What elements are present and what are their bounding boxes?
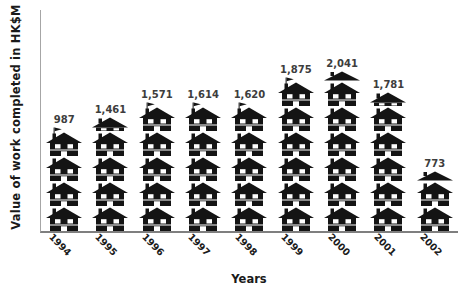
house-with-flag-icon: [278, 77, 314, 106]
house-partial-icon: [92, 117, 128, 131]
pictogram-column-1996: 1,571: [134, 89, 180, 231]
value-label: 1,620: [234, 89, 266, 100]
house-icon: [92, 182, 128, 206]
pictogram-column-2001: 1,781: [365, 79, 411, 231]
value-label: 987: [54, 114, 75, 125]
house-icon: [324, 182, 360, 206]
house-icon: [139, 182, 175, 206]
house-partial-icon: [370, 92, 406, 106]
house-icon: [324, 207, 360, 231]
house-stack: [185, 102, 221, 231]
house-icon: [278, 207, 314, 231]
x-tick-label: 1998: [233, 231, 259, 257]
x-tick-label: 1995: [93, 231, 119, 257]
value-label: 1,614: [187, 89, 219, 100]
house-icon: [139, 132, 175, 156]
house-icon: [324, 82, 360, 106]
house-stack: [278, 77, 314, 231]
house-icon: [231, 182, 267, 206]
house-icon: [139, 157, 175, 181]
house-icon: [46, 157, 82, 181]
value-label: 1,571: [141, 89, 173, 100]
house-stack: [231, 102, 267, 231]
pictogram-column-1997: 1,614: [180, 89, 226, 231]
x-tick-label: 2001: [372, 231, 398, 257]
house-icon: [370, 182, 406, 206]
house-icon: [231, 157, 267, 181]
house-roof-icon: [324, 71, 360, 81]
house-icon: [185, 207, 221, 231]
house-icon: [324, 107, 360, 131]
value-label: 2,041: [326, 58, 358, 69]
x-tick-label: 1997: [186, 231, 212, 257]
value-label: 1,461: [95, 104, 127, 115]
house-icon: [185, 132, 221, 156]
house-icon: [324, 157, 360, 181]
house-roof-icon: [417, 171, 453, 181]
house-icon: [92, 207, 128, 231]
house-icon: [46, 182, 82, 206]
x-tick-slot: 2002: [412, 236, 458, 247]
house-with-flag-icon: [46, 127, 82, 156]
value-label: 1,875: [280, 64, 312, 75]
house-icon: [139, 207, 175, 231]
x-tick-label: 1999: [279, 231, 305, 257]
house-icon: [92, 132, 128, 156]
x-tick-slot: 1995: [87, 236, 133, 247]
house-icon: [370, 132, 406, 156]
x-tick-label: 2002: [418, 231, 444, 257]
x-tick-slot: 1996: [133, 236, 179, 247]
x-tick-slot: 1994: [40, 236, 86, 247]
house-icon: [231, 132, 267, 156]
y-axis-title: Value of work completed in HK$M: [0, 0, 32, 233]
house-stack: [139, 102, 175, 231]
house-icon: [278, 132, 314, 156]
house-icon: [370, 207, 406, 231]
pictogram-column-1999: 1,875: [273, 64, 319, 231]
house-icon: [185, 182, 221, 206]
value-label: 1,781: [373, 79, 405, 90]
x-tick-label: 1996: [140, 231, 166, 257]
y-axis-title-text: Value of work completed in HK$M: [9, 4, 23, 229]
house-icon: [417, 207, 453, 231]
house-icon: [278, 157, 314, 181]
house-icon: [278, 107, 314, 131]
x-tick-slot: 2001: [365, 236, 411, 247]
house-icon: [92, 157, 128, 181]
house-with-flag-icon: [231, 102, 267, 131]
x-tick-label: 1994: [47, 231, 73, 257]
house-icon: [370, 107, 406, 131]
house-stack: [324, 71, 360, 231]
house-icon: [417, 182, 453, 206]
house-with-flag-icon: [185, 102, 221, 131]
x-tick-label: 2000: [326, 231, 352, 257]
house-icon: [324, 132, 360, 156]
house-stack: [92, 117, 128, 231]
pictogram-column-1998: 1,620: [226, 89, 272, 231]
x-tick-slot: 2000: [319, 236, 365, 247]
x-tick-slot: 1997: [180, 236, 226, 247]
house-stack: [370, 92, 406, 231]
x-axis-title: Years: [40, 272, 458, 286]
pictogram-column-2000: 2,041: [319, 58, 365, 231]
house-with-flag-icon: [139, 102, 175, 131]
x-tick-slot: 1999: [272, 236, 318, 247]
house-stack: [46, 127, 82, 231]
pictogram-column-2002: 773: [412, 158, 458, 231]
house-icon: [185, 157, 221, 181]
house-icon: [370, 157, 406, 181]
house-stack: [417, 171, 453, 231]
house-icon: [46, 207, 82, 231]
pictogram-column-1995: 1,461: [87, 104, 133, 231]
house-icon: [278, 182, 314, 206]
house-icon: [231, 207, 267, 231]
pictogram-column-1994: 987: [41, 114, 87, 231]
x-tick-slot: 1998: [226, 236, 272, 247]
plot-area: 9871,4611,5711,6141,6201,8752,0411,78177…: [40, 10, 458, 233]
pictogram-chart: Value of work completed in HK$M 9871,461…: [0, 0, 465, 288]
value-label: 773: [424, 158, 445, 169]
x-axis-tick-labels: 199419951996199719981999200020012002: [40, 236, 458, 268]
